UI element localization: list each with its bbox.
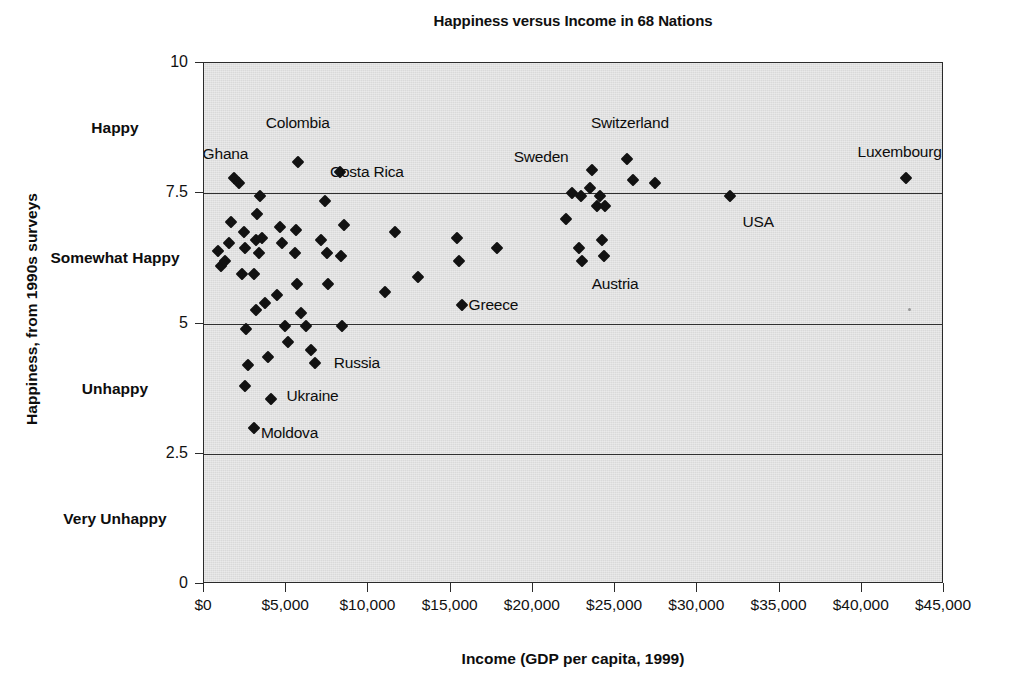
x-tick-mark [203, 583, 204, 592]
data-point [281, 335, 294, 348]
data-point [276, 236, 289, 249]
y-category-label-very-unhappy: Very Unhappy [40, 508, 190, 527]
x-tick-mark [696, 583, 697, 592]
point-label-colombia: Colombia [266, 114, 330, 132]
plot-area: GhanaColombiaCosta RicaSwedenSwitzerland… [203, 62, 943, 583]
data-point [456, 299, 469, 312]
y-tick-mark [195, 323, 203, 324]
data-point [318, 195, 331, 208]
y-category-label-unhappy: Unhappy [40, 378, 190, 397]
y-axis-title: Happiness, from 1990s surveys [23, 139, 41, 479]
y-tick-label-10: 10 [128, 53, 188, 71]
data-point [900, 171, 913, 184]
data-point [336, 320, 349, 333]
data-point [290, 223, 303, 236]
point-label-moldova: Moldova [261, 424, 318, 442]
x-tick-mark [943, 583, 944, 592]
y-tick-label-0: 0 [128, 574, 188, 592]
chart-title: Happiness versus Income in 68 Nations [203, 12, 943, 29]
y-category-label-somewhat-happy: Somewhat Happy [40, 248, 190, 267]
data-point [271, 288, 284, 301]
data-point [248, 421, 261, 434]
data-point [451, 231, 464, 244]
data-point [337, 218, 350, 231]
y-tick-mark [195, 583, 203, 584]
data-point [388, 226, 401, 239]
data-point [239, 380, 252, 393]
data-point [599, 200, 612, 213]
data-point [289, 247, 302, 260]
data-point [249, 304, 262, 317]
x-tick-mark [532, 583, 533, 592]
data-point [265, 393, 278, 406]
data-point [309, 356, 322, 369]
data-point [576, 255, 589, 268]
y-tick-label-2.5: 2.5 [128, 444, 188, 462]
data-point [305, 343, 318, 356]
point-label-switzerland: Switzerland [591, 114, 669, 132]
gridline-y-2.5 [204, 454, 942, 455]
point-label-ukraine: Ukraine [287, 387, 339, 405]
data-point [573, 242, 586, 255]
point-label-usa: USA [743, 213, 774, 231]
data-point [239, 242, 252, 255]
x-axis-title: Income (GDP per capita, 1999) [203, 650, 943, 668]
scan-artifact-speck [908, 308, 911, 311]
data-point [490, 242, 503, 255]
plot-background-texture [204, 63, 942, 582]
data-point [453, 255, 466, 268]
data-point [314, 234, 327, 247]
data-point [278, 320, 291, 333]
data-point [559, 213, 572, 226]
data-point [248, 268, 261, 281]
chart-figure: Happiness versus Income in 68 Nations Ha… [0, 0, 1024, 700]
y-category-label-happy: Happy [40, 118, 190, 137]
data-point [320, 247, 333, 260]
point-label-ghana: Ghana [203, 145, 248, 163]
data-point [648, 176, 661, 189]
x-tick-mark [861, 583, 862, 592]
data-point [295, 307, 308, 320]
x-tick-label-45000: $45,000 [888, 596, 998, 614]
data-point [273, 221, 286, 234]
data-point [241, 359, 254, 372]
data-point [212, 244, 225, 257]
data-point [250, 208, 263, 221]
x-tick-mark [779, 583, 780, 592]
x-tick-mark [285, 583, 286, 592]
point-label-costa-rica: Costa Rica [330, 163, 404, 181]
data-point [724, 189, 737, 202]
x-tick-mark [367, 583, 368, 592]
data-point [300, 320, 313, 333]
gridline-y-5 [204, 324, 942, 325]
data-point [235, 268, 248, 281]
data-point [596, 234, 609, 247]
data-point [597, 249, 610, 262]
data-point [620, 153, 633, 166]
data-point [291, 278, 304, 291]
point-label-austria: Austria [592, 275, 639, 293]
data-point [379, 286, 392, 299]
x-tick-mark [614, 583, 615, 592]
data-point [254, 189, 267, 202]
data-point [322, 278, 335, 291]
y-tick-mark [195, 453, 203, 454]
data-point [411, 270, 424, 283]
data-point [225, 216, 238, 229]
y-tick-label-5: 5 [128, 314, 188, 332]
data-point [262, 351, 275, 364]
data-point [335, 249, 348, 262]
data-point [291, 156, 304, 169]
y-tick-mark [195, 192, 203, 193]
point-label-luxembourg: Luxembourg [858, 143, 942, 161]
point-label-russia: Russia [334, 354, 380, 372]
x-tick-mark [450, 583, 451, 592]
data-point [238, 226, 251, 239]
data-point [627, 174, 640, 187]
point-label-greece: Greece [469, 296, 519, 314]
data-point [253, 247, 266, 260]
y-tick-mark [195, 62, 203, 63]
point-label-sweden: Sweden [514, 148, 569, 166]
data-point [222, 236, 235, 249]
data-point [586, 163, 599, 176]
